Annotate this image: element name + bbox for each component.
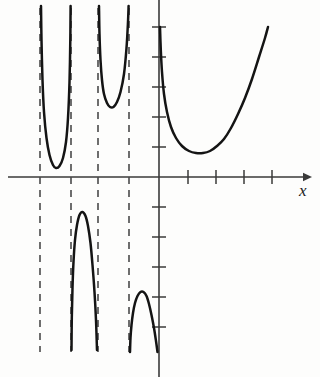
asymptotes-group — [40, 8, 129, 352]
curve-lower-branch-2 — [130, 291, 158, 352]
function-graph-figure: x — [0, 0, 320, 377]
curves-group — [41, 6, 268, 352]
curve-right-branch — [160, 27, 268, 153]
x-axis-label: x — [299, 182, 307, 199]
curve-lower-branch-1 — [72, 212, 98, 350]
curve-upper-branch-2 — [99, 6, 129, 108]
curve-upper-branch-1 — [41, 6, 71, 168]
x-axis-arrowhead — [303, 173, 312, 181]
plot-canvas — [0, 0, 320, 377]
